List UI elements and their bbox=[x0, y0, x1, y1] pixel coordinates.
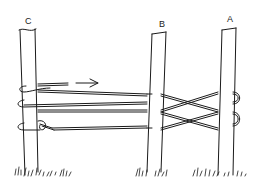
post-c bbox=[19, 29, 38, 175]
direction-arrow-icon bbox=[76, 79, 98, 87]
post-label-c: C bbox=[25, 17, 32, 26]
grass bbox=[15, 167, 246, 176]
rope-posts-drawing bbox=[0, 0, 257, 191]
rope bbox=[18, 83, 240, 130]
post-label-a: A bbox=[227, 15, 233, 24]
post-b bbox=[147, 32, 166, 172]
post-label-b: B bbox=[159, 20, 165, 29]
